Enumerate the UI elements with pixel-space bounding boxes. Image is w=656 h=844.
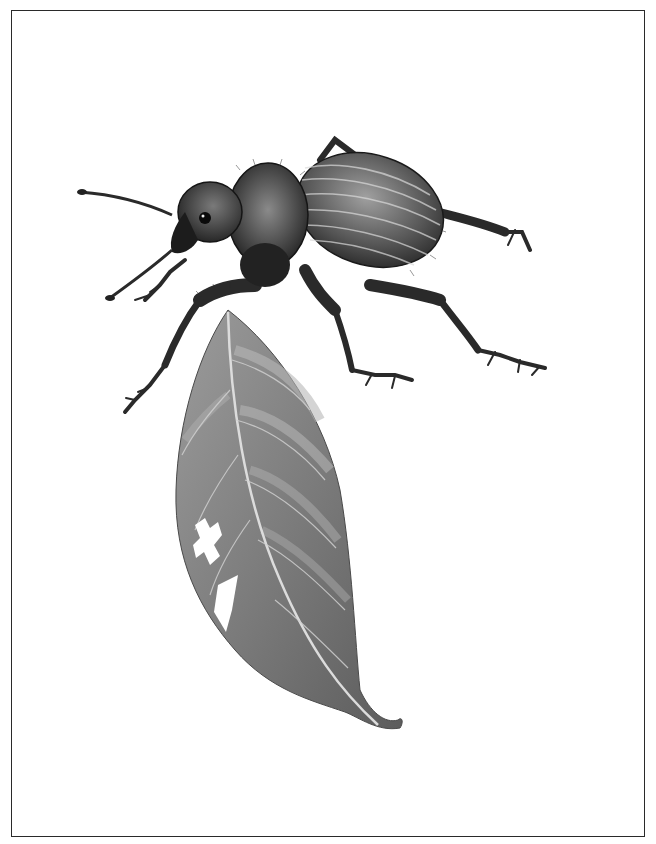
weevil-beetle [77,135,458,301]
beetle-antenna [80,192,172,215]
beetle-antenna [110,250,172,298]
beetle-eye [199,212,211,224]
weevil-illustration [0,0,656,844]
